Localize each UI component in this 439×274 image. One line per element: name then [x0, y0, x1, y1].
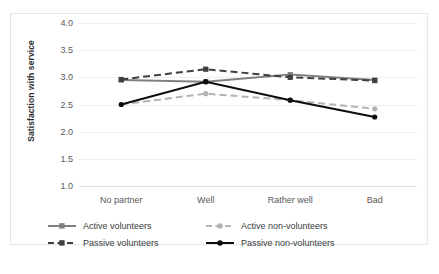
chart-legend: Active volunteersActive non-volunteersPa… — [10, 217, 428, 251]
series-lines — [79, 23, 417, 186]
y-axis-tick-label: 3.5 — [60, 45, 73, 55]
legend-swatch-square-icon — [47, 221, 77, 231]
legend-item: Active volunteers — [47, 217, 199, 234]
data-point-marker — [203, 79, 208, 84]
y-axis-tick-label: 1.0 — [60, 181, 73, 191]
data-point-marker — [372, 114, 377, 119]
data-point-marker — [203, 67, 208, 72]
data-point-marker — [288, 75, 293, 80]
x-axis-tick-label: No partner — [100, 195, 143, 205]
gridline — [79, 186, 417, 187]
chart-figure: Satisfaction with service 4.03.53.02.52.… — [0, 0, 439, 274]
legend-item: Active non-volunteers — [205, 217, 391, 234]
legend-swatch-circle-icon — [205, 221, 235, 231]
x-axis-tick-label: Well — [197, 195, 214, 205]
legend-label: Active volunteers — [83, 221, 152, 231]
y-axis-tick-label: 2.0 — [60, 127, 73, 137]
data-point-marker — [372, 106, 377, 111]
plot-area: 4.03.53.02.52.01.51.0 No partnerWellRath… — [79, 23, 417, 186]
legend-swatch-circle-icon — [205, 238, 235, 248]
data-point-marker — [372, 78, 377, 83]
chart-frame: Satisfaction with service 4.03.53.02.52.… — [10, 13, 428, 245]
x-axis-tick-label: Bad — [367, 195, 383, 205]
y-axis-tick-label: 2.5 — [60, 100, 73, 110]
y-axis-tick-label: 3.0 — [60, 72, 73, 82]
legend-label: Active non-volunteers — [241, 221, 328, 231]
y-axis-title: Satisfaction with service — [26, 11, 36, 171]
data-point-marker — [203, 91, 208, 96]
y-axis-tick-label: 4.0 — [60, 18, 73, 28]
legend-label: Passive volunteers — [83, 238, 159, 248]
legend-item: Passive non-volunteers — [205, 234, 391, 251]
legend-item: Passive volunteers — [47, 234, 199, 251]
data-point-marker — [119, 102, 124, 107]
data-point-marker — [288, 98, 293, 103]
legend-swatch-square-icon — [47, 238, 77, 248]
series-line — [121, 94, 375, 109]
x-axis-tick-label: Rather well — [268, 195, 313, 205]
legend-label: Passive non-volunteers — [241, 238, 335, 248]
data-point-marker — [119, 77, 124, 82]
y-axis-tick-label: 1.5 — [60, 154, 73, 164]
